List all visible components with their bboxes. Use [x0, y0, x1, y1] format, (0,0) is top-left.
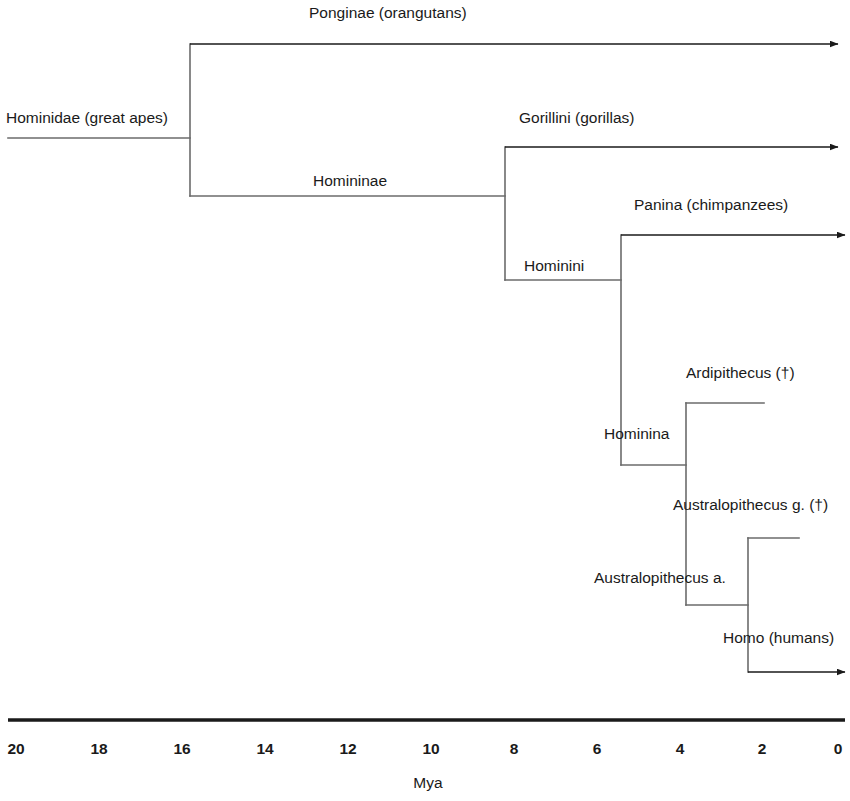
axis-tick-14: 14 [256, 741, 273, 757]
label-hominidae: Hominidae (great apes) [6, 110, 168, 126]
label-hominini: Hominini [524, 258, 584, 274]
axis-tick-16: 16 [173, 741, 190, 757]
axis-title-mya: Mya [413, 775, 442, 791]
label-homininae: Homininae [313, 173, 387, 189]
label-ardipithecus: Ardipithecus (†) [686, 365, 795, 381]
axis-tick-2: 2 [758, 741, 767, 757]
label-ponginae: Ponginae (orangutans) [309, 5, 467, 21]
axis-tick-0: 0 [834, 741, 843, 757]
axis-tick-12: 12 [339, 741, 356, 757]
label-panina: Panina (chimpanzees) [634, 197, 788, 213]
axis-tick-8: 8 [510, 741, 519, 757]
tree-extant-branches [190, 44, 845, 672]
axis-tick-10: 10 [422, 741, 439, 757]
label-australopithecus-a: Australopithecus a. [594, 570, 726, 586]
label-hominina: Hominina [604, 426, 669, 442]
phylogenetic-tree-figure: Hominidae (great apes) Ponginae (orangut… [0, 0, 850, 801]
label-australopithecus-g: Australopithecus g. (†) [673, 497, 828, 513]
axis-tick-4: 4 [676, 741, 685, 757]
label-homo: Homo (humans) [723, 630, 834, 646]
axis-tick-6: 6 [593, 741, 602, 757]
label-gorillini: Gorillini (gorillas) [519, 110, 634, 126]
axis-tick-18: 18 [90, 741, 107, 757]
axis-tick-20: 20 [7, 741, 24, 757]
